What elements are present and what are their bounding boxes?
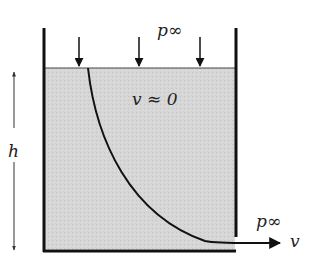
height-label: h bbox=[8, 141, 19, 161]
interior-velocity-label: v ≈ 0 bbox=[132, 89, 177, 109]
tank-diagram bbox=[0, 0, 327, 274]
exit-pressure-label: p∞ bbox=[256, 211, 281, 231]
top-pressure-label: p∞ bbox=[157, 20, 182, 40]
exit-velocity-label: v bbox=[290, 231, 300, 251]
